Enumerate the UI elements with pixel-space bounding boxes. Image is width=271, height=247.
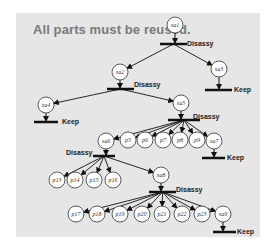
node-p19: p19	[112, 206, 128, 222]
node-label: sa8	[157, 172, 165, 178]
node-label: p21	[157, 211, 167, 217]
operation-label: Disassy	[193, 113, 220, 121]
node-p15: p15	[86, 172, 102, 188]
operation-label: Keep	[62, 118, 79, 126]
node-p6: p6	[137, 132, 153, 148]
node-sa1: sa1	[167, 17, 183, 33]
node-sa3: sa3	[211, 61, 227, 77]
node-sa5: sa5	[173, 95, 189, 111]
node-p22: p22	[174, 206, 190, 222]
operation-disassy-sa8: Disassy	[84, 183, 216, 212]
node-p21: p21	[154, 206, 170, 222]
disassembly-tree: DisassyDisassyKeepKeepDisassyKeepDisassy…	[0, 0, 271, 247]
operation-label: Disassy	[134, 81, 161, 89]
node-label: p7	[159, 137, 167, 143]
node-p8: p8	[172, 132, 188, 148]
node-sa9: sa9	[215, 206, 231, 222]
node-label: p20	[137, 211, 147, 217]
node-p7: p7	[155, 132, 171, 148]
operation-label: Keep	[234, 86, 251, 94]
node-sa7: sa7	[206, 133, 222, 149]
node-p18: p18	[89, 206, 105, 222]
operation-label: Keep	[237, 228, 254, 236]
node-label: p6	[141, 137, 148, 143]
node-label: p15	[89, 177, 99, 183]
edge-to-sa5	[121, 89, 174, 101]
edge-to-sa8	[104, 156, 153, 172]
node-p17: p17	[68, 206, 84, 222]
node-label: sa1	[171, 22, 179, 28]
node-label: sa9	[219, 211, 227, 217]
operation-label: Disassy	[176, 186, 203, 194]
operation-keep-sa3: Keep	[205, 77, 251, 94]
operation-keep-sa4: Keep	[34, 113, 79, 126]
node-p23: p23	[194, 206, 210, 222]
node-label: p8	[176, 137, 183, 143]
node-label: sa7	[210, 138, 219, 144]
edge-to-p9	[184, 120, 193, 133]
node-label: p22	[177, 211, 187, 217]
operation-keep-sa9: Keep	[213, 222, 254, 236]
node-p13: p13	[49, 172, 65, 188]
node-sa6: sa6	[98, 133, 114, 149]
edge-to-sa4	[54, 89, 121, 103]
operation-disassy-sa2: Disassy	[54, 80, 173, 103]
node-label: sa2	[116, 69, 124, 75]
node-label: p14	[70, 177, 80, 183]
node-sa2: sa2	[112, 64, 128, 80]
node-label: p17	[71, 211, 82, 217]
node-label: p18	[92, 211, 102, 217]
node-label: sa5	[177, 100, 185, 106]
node-p14: p14	[67, 172, 83, 188]
node-sa8: sa8	[153, 167, 169, 183]
node-sa4: sa4	[38, 97, 54, 113]
node-label: p23	[197, 211, 207, 217]
node-label: sa3	[215, 66, 223, 72]
node-p20: p20	[134, 206, 150, 222]
operation-label: Disassy	[187, 40, 214, 48]
node-p16: p16	[105, 172, 121, 188]
node-p5: p5	[120, 132, 136, 148]
edge-to-sa3	[174, 44, 212, 65]
edge-to-p16	[104, 156, 110, 173]
node-label: p5	[124, 137, 131, 143]
node-label: p16	[108, 177, 118, 183]
node-label: p9	[193, 137, 200, 143]
node-label: p13	[52, 177, 62, 183]
node-label: p19	[115, 211, 125, 217]
node-label: sa6	[102, 138, 110, 144]
node-label: sa4	[42, 102, 50, 108]
node-p9: p9	[189, 132, 205, 148]
operation-label: Keep	[227, 154, 244, 162]
edge-to-sa2	[127, 44, 173, 68]
operation-keep-sa7: Keep	[202, 149, 244, 162]
operation-label: Disassy	[66, 149, 93, 157]
operation-disassy-sa1: Disassy	[127, 33, 213, 68]
